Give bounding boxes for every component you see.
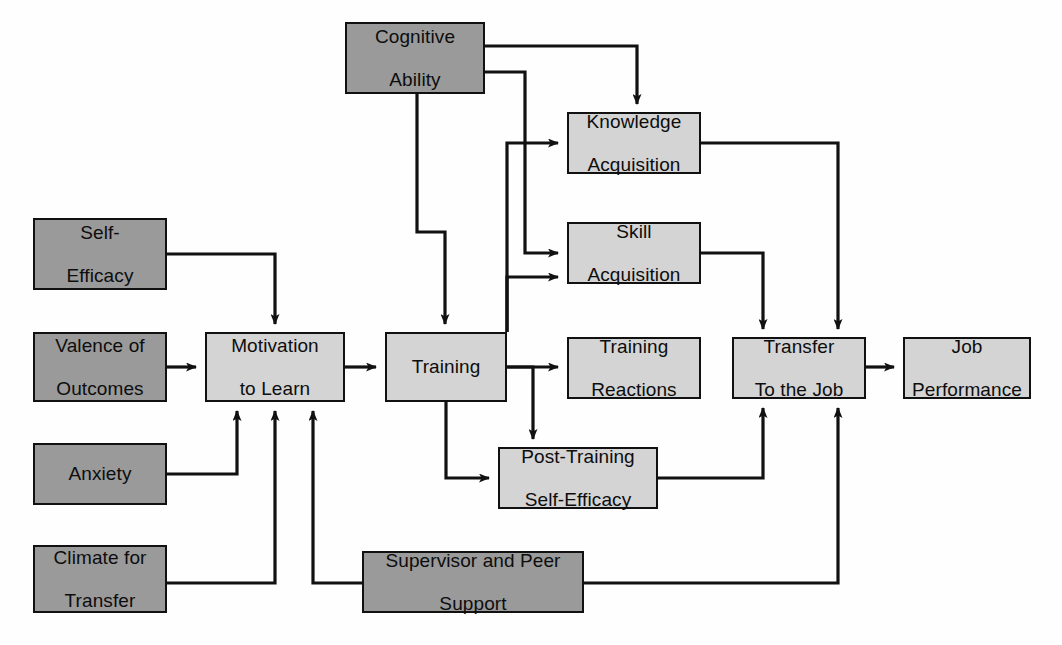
node-label-line2: Performance [908,379,1026,400]
node-label-line2: to Learn [227,378,323,399]
node-label-line2: Efficacy [63,265,138,286]
node-label-line1: Valence of [51,335,148,356]
node-label-line2: Acquisition [583,154,686,175]
node-label-line2: Reactions [587,379,680,400]
edge-self-efficacy-to-motivation-to-learn [167,254,275,324]
edge-training-to-post-training-self-efficacy [446,402,489,478]
node-label-line1: Job [908,336,1026,357]
edge-cognitive-ability-to-knowledge-acquisition [485,46,637,104]
node-label-line1: Cognitive [371,26,459,47]
node-label-line1: Knowledge [583,111,686,132]
node-label-line2: Support [381,593,564,614]
edge-knowledge-acquisition-to-transfer [701,143,838,329]
node-cognitive-ability[interactable]: CognitiveAbility [345,22,485,94]
edge-training-to-skill-acquisition [507,277,558,332]
node-training-reactions[interactable]: TrainingReactions [567,337,701,399]
node-motivation-to-learn[interactable]: Motivationto Learn [205,332,345,402]
node-label-line2: Acquisition [584,264,685,285]
edge-training-trunk-to-post-training-self-efficacy [507,367,533,439]
node-label-line1: Motivation [227,335,323,356]
node-label-line2: Ability [371,69,459,90]
node-label-line2: Self-Efficacy [517,489,639,510]
edge-cognitive-ability-to-skill-acquisition [485,72,558,253]
node-label-line1: Supervisor and Peer [381,550,564,571]
node-climate-for-transfer[interactable]: Climate forTransfer [33,545,167,613]
node-transfer-to-the-job[interactable]: TransferTo the Job [732,337,866,399]
node-self-efficacy[interactable]: Self-Efficacy [33,218,167,290]
node-label-line1: Self- [63,222,138,243]
node-label-line1: Post-Training [517,446,639,467]
node-training[interactable]: Training [385,332,507,402]
node-label-line2: Transfer [50,590,151,611]
edge-supervisor-support-to-motivation-to-learn [313,411,362,583]
node-label-line1: Climate for [50,547,151,568]
node-job-performance[interactable]: JobPerformance [903,337,1031,399]
edge-cognitive-ability-to-training [417,94,445,324]
node-post-training-self-efficacy[interactable]: Post-TrainingSelf-Efficacy [498,447,658,509]
node-label-line2: Outcomes [51,378,148,399]
edge-climate-for-transfer-to-motivation-to-learn [167,411,275,583]
node-skill-acquisition[interactable]: SkillAcquisition [567,222,701,284]
node-label-line1: Anxiety [64,463,135,484]
edge-anxiety-to-motivation-to-learn [167,411,237,474]
node-knowledge-acquisition[interactable]: KnowledgeAcquisition [567,112,701,174]
node-anxiety[interactable]: Anxiety [33,443,167,505]
node-label-line1: Training [408,356,485,377]
edge-training-to-knowledge-acquisition [507,143,558,332]
node-supervisor-and-peer-support[interactable]: Supervisor and PeerSupport [362,551,584,613]
node-label-line1: Transfer [751,336,848,357]
node-label-line2: To the Job [751,379,848,400]
edge-post-training-self-efficacy-to-transfer [658,408,763,478]
edge-skill-acquisition-to-transfer [701,253,763,329]
node-valence-of-outcomes[interactable]: Valence ofOutcomes [33,332,167,402]
node-label-line1: Skill [584,221,685,242]
diagram-canvas: CognitiveAbility KnowledgeAcquisition Sk… [0,0,1062,645]
node-label-line1: Training [587,336,680,357]
